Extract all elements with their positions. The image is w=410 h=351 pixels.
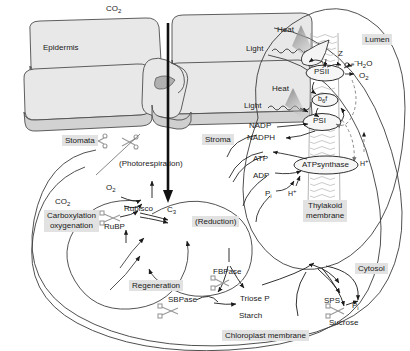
nadph-label: NADPH [247,134,275,142]
adp-label: ADP [253,172,269,180]
rubp-label: RuBP [104,223,125,231]
light-label-2: Light [244,102,261,110]
stroma-label: Stroma [202,134,234,145]
scissors-icon-fbpase [211,276,229,290]
chloroplast-membrane-label: Chloroplast membrane [222,330,309,341]
lumen-label: Lumen [362,34,392,45]
atpsynthase-label: ATPsynthase [302,161,349,169]
z-label: Z [338,50,343,58]
stroma-co2-label: CO2 [55,198,70,207]
reduction-label: (Reduction) [192,216,239,227]
stomata-leader-line [96,134,140,175]
triose-p-label: Triose P [240,295,270,303]
co2-input-label: CO2 [106,5,121,14]
diagram-canvas [0,0,410,351]
scissors-icon-sps [326,304,344,318]
b6f-label: b6f [318,95,327,104]
thylakoid-membrane-label: Thylakoidmembrane [303,200,347,222]
regeneration-label: Regeneration [129,280,183,291]
cytosol-label: Cytosol [355,263,388,274]
c3-label: C3 [167,206,176,215]
photorespiration-label: (Photorespiration) [119,160,183,168]
nadp-label: NADP [249,122,271,130]
pi-label-cytosol: Pi [352,302,359,311]
oxygen-label: O2 [359,72,369,81]
photosynthesis-diagram: CO2 Epidermis Stomata Stroma (Photorespi… [0,0,410,351]
sbpase-label: SBPase [168,296,197,304]
psii-label: PSII [314,68,329,76]
stomata-label: Stomata [62,135,98,146]
water-label: H2O [357,60,372,69]
stroma-o2-label: O2 [106,184,116,193]
scissors-icon-stomata-2 [122,135,138,149]
heat-label-1: Heat [277,26,294,34]
rubisco-label: Rubisco [124,205,153,213]
pi-label-stroma: Pi [265,190,272,199]
scissors-icon-sbpase [158,304,178,318]
carboxylation-oxygenation-label: Carboxylationoxygenation [44,210,99,232]
heat-label-2: Heat [272,85,289,93]
light-label-1: Light [246,45,263,53]
proton-label-lumen: H+ [360,158,369,167]
atp-label: ATP [253,155,268,163]
proton-label-stroma: H+ [288,188,297,197]
starch-label: Starch [239,312,262,320]
epidermis-label: Epidermis [43,44,79,52]
psi-label: PSI [313,117,326,125]
fbpase-label: FBPase [213,268,241,276]
sps-label: SPS [324,297,340,305]
sucrose-label: Sucrose [329,319,358,327]
